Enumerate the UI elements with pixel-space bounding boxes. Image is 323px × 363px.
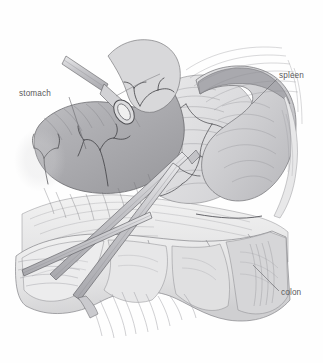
label-spleen: spleen: [279, 71, 304, 81]
label-stomach: stomach: [19, 89, 51, 99]
anatomy-illustration-canvas: [0, 0, 323, 363]
label-colon: colon: [281, 288, 301, 298]
illustration-figure: stomach spleen colon: [0, 0, 323, 363]
